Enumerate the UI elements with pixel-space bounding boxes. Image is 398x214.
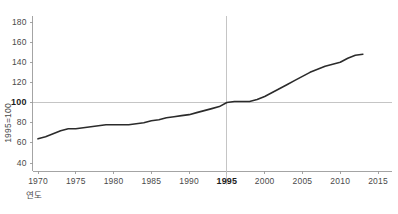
x-tick-label: 2010 [320, 176, 360, 186]
index-line-chart: 406080100120140160180 197019751980198519… [0, 0, 398, 214]
x-tick-label: 1985 [131, 176, 171, 186]
reference-lines [33, 16, 392, 185]
y-axis-title: 1995=100 [3, 95, 13, 151]
series-line-0 [38, 54, 363, 139]
axis-lines [30, 16, 392, 174]
y-tick-label: 120 [1, 77, 27, 87]
x-tick-label: 1990 [169, 176, 209, 186]
x-axis-title: 연도 [26, 188, 42, 200]
y-tick-label: 40 [1, 158, 27, 168]
x-tick-label: 1980 [94, 176, 134, 186]
x-tick-label: 2015 [358, 176, 398, 186]
y-tick-label: 160 [1, 37, 27, 47]
x-tick-label: 2000 [245, 176, 285, 186]
y-tick-label: 180 [1, 17, 27, 27]
data-series [38, 54, 363, 139]
y-tick-label: 140 [1, 57, 27, 67]
x-tick-label: 1995 [207, 176, 247, 186]
x-tick-label: 2005 [282, 176, 322, 186]
x-tick-label: 1970 [18, 176, 58, 186]
x-tick-label: 1975 [56, 176, 96, 186]
